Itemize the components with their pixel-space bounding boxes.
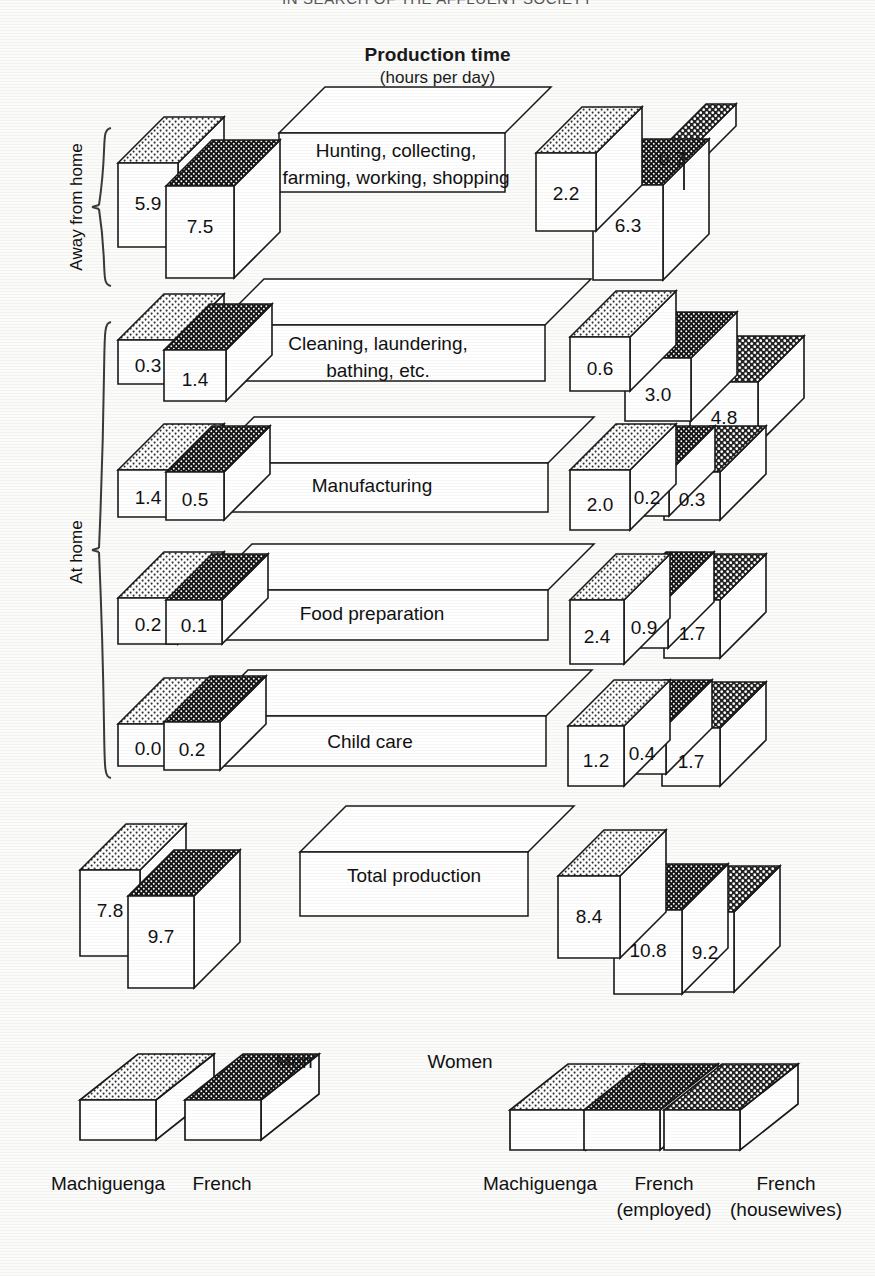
category-label: Hunting, collecting,: [316, 140, 477, 161]
legend: MenMachiguengaFrenchWomenMachiguengaFren…: [51, 1051, 842, 1220]
chart-canvas: 5.97.52.26.30.70.31.40.63.04.81.40.52.00…: [0, 0, 875, 1276]
category-label: Child care: [327, 731, 413, 752]
value-label: 8.4: [576, 906, 603, 927]
category-label: Manufacturing: [312, 475, 432, 496]
value-label: 0.7: [659, 148, 685, 169]
axis-braces: Away from homeAt home: [67, 128, 111, 778]
away-from-home-brace: [92, 128, 111, 286]
value-label: 9.2: [692, 942, 718, 963]
value-label: 0.1: [181, 615, 207, 636]
bar-group: [118, 417, 766, 530]
category-labels: Hunting, collecting,farming, working, sh…: [282, 140, 509, 886]
category-label: farming, working, shopping: [282, 167, 509, 188]
value-label: 0.3: [679, 489, 705, 510]
legend-label-men-french: French: [192, 1173, 251, 1194]
value-label: 0.3: [135, 355, 161, 376]
value-label: 3.0: [645, 384, 671, 405]
at-home-brace: [92, 322, 111, 778]
legend-heading-women: Women: [427, 1051, 492, 1072]
value-label: 0.2: [634, 487, 660, 508]
value-label: 0.9: [631, 617, 657, 638]
value-label: 0.0: [135, 738, 161, 759]
bar-group: [80, 806, 780, 994]
value-label: 9.7: [148, 926, 174, 947]
value-label: 0.4: [629, 743, 656, 764]
legend-label-women-french-employed-2: (employed): [616, 1199, 711, 1220]
value-label: 10.8: [630, 940, 667, 961]
legend-label-women-french-housewives: French: [756, 1173, 815, 1194]
value-label: 1.7: [679, 623, 705, 644]
bar-group: [118, 670, 766, 786]
value-label: 0.6: [587, 358, 613, 379]
category-label: Food preparation: [300, 603, 445, 624]
value-label: 1.4: [182, 369, 209, 390]
value-label: 5.9: [135, 193, 161, 214]
at-home-label: At home: [67, 520, 86, 583]
value-label: 0.5: [182, 489, 208, 510]
value-label: 2.4: [584, 626, 611, 647]
category-label: Total production: [347, 865, 481, 886]
value-label: 7.8: [97, 900, 123, 921]
value-label: 1.4: [135, 487, 162, 508]
value-label: 2.0: [587, 494, 613, 515]
value-label: 4.8: [711, 407, 737, 428]
value-label: 1.7: [678, 751, 704, 772]
category-label: bathing, etc.: [326, 360, 430, 381]
legend-label-men-machiguenga: Machiguenga: [51, 1173, 166, 1194]
value-label: 0.2: [179, 739, 205, 760]
legend-label-women-machiguenga: Machiguenga: [483, 1173, 598, 1194]
value-label: 6.3: [615, 215, 641, 236]
category-label: Cleaning, laundering,: [288, 333, 468, 354]
chart-page: IN SEARCH OF THE AFFLUENT SOCIETY Produc…: [0, 0, 875, 1276]
away-from-home-label: Away from home: [67, 143, 86, 270]
value-label: 0.2: [135, 614, 161, 635]
legend-label-women-french-housewives-2: (housewives): [730, 1199, 842, 1220]
value-label: 2.2: [553, 183, 579, 204]
legend-heading-men: Men: [276, 1051, 313, 1072]
value-label: 1.2: [583, 750, 609, 771]
legend-label-women-french-employed: French: [634, 1173, 693, 1194]
value-label: 7.5: [187, 216, 213, 237]
